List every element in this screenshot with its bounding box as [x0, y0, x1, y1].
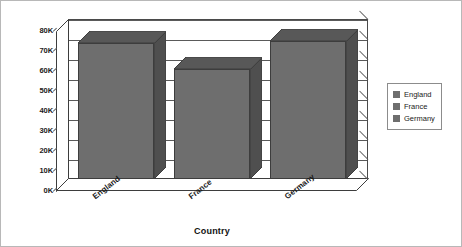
legend-swatch-icon: [393, 91, 400, 98]
x-axis-title: Country: [56, 226, 368, 236]
y-axis-tick-label: 20K: [27, 147, 53, 155]
legend-item: France: [393, 101, 435, 112]
legend-swatch-icon: [393, 115, 400, 122]
y-axis-tick-label: 60K: [27, 67, 53, 75]
legend-item: Germany: [393, 113, 435, 124]
chart-container: Sum of Order Amount 0K10K20K30K40K50K60K…: [0, 0, 462, 247]
bar-top-face: [174, 57, 263, 69]
gridline: [69, 20, 367, 21]
bar-front-face: [174, 69, 251, 179]
bar-front-face: [270, 41, 347, 179]
y-axis-tick-label: 30K: [27, 127, 53, 135]
bar-england: [78, 43, 155, 179]
legend-item-label: France: [404, 102, 427, 111]
chart-legend: EnglandFranceGermany: [387, 83, 442, 130]
bar-front-face: [78, 43, 155, 179]
y-axis-tick-label: 50K: [27, 87, 53, 95]
y-axis-tick-label: 80K: [27, 27, 53, 35]
plot-area: EnglandFranceGermany: [56, 19, 368, 191]
bar-side-face: [250, 57, 262, 179]
bar-side-face: [154, 31, 166, 179]
bar-top-face: [270, 29, 359, 41]
bar-top-face: [78, 31, 167, 43]
legend-item-label: England: [404, 90, 432, 99]
legend-item-label: Germany: [404, 114, 435, 123]
legend-item: England: [393, 89, 435, 100]
y-axis-tick-label: 40K: [27, 107, 53, 115]
bar-germany: [270, 41, 347, 179]
y-axis-tick-label: 10K: [27, 167, 53, 175]
y-axis-tick-label: 0K: [27, 187, 53, 195]
y-axis-tick-labels: 0K10K20K30K40K50K60K70K80K: [25, 1, 53, 247]
bar-france: [174, 69, 251, 179]
y-axis-tick-label: 70K: [27, 47, 53, 55]
bar-side-face: [346, 29, 358, 179]
legend-swatch-icon: [393, 103, 400, 110]
